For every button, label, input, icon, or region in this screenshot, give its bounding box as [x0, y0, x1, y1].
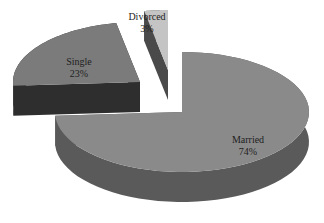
slice-label-single: Single 23% — [66, 56, 92, 80]
label-value: 3% — [128, 23, 165, 35]
label-value: 23% — [66, 68, 92, 80]
label-value: 74% — [232, 146, 264, 158]
slice-label-married: Married 74% — [232, 134, 264, 158]
label-name: Divorced — [128, 11, 165, 23]
slice-label-divorced: Divorced 3% — [128, 11, 165, 35]
pie-chart: Divorced 3% Single 23% Married 74% — [0, 0, 324, 223]
label-name: Married — [232, 134, 264, 146]
label-name: Single — [66, 56, 92, 68]
